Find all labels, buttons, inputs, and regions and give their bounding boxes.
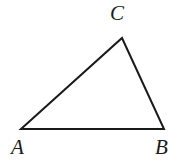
triangle-outline bbox=[21, 38, 164, 129]
vertex-label-b: B bbox=[155, 137, 168, 158]
vertex-label-c: C bbox=[110, 3, 124, 24]
vertex-label-a: A bbox=[11, 137, 24, 158]
triangle-figure: A B C bbox=[0, 0, 187, 167]
